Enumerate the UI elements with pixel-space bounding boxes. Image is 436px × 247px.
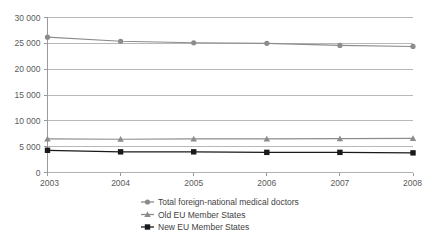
square-marker-icon bbox=[410, 150, 415, 155]
square-marker-icon bbox=[337, 150, 342, 155]
legend-item[interactable]: Old EU Member States bbox=[141, 210, 245, 220]
y-axis-label: 15 000 bbox=[15, 90, 41, 100]
chart-legend: Total foreign-national medical doctorsOl… bbox=[141, 197, 299, 232]
square-marker-icon bbox=[264, 150, 269, 155]
x-axis-ticks-group bbox=[48, 173, 414, 177]
square-marker-icon bbox=[191, 149, 196, 154]
legend-item-label: Total foreign-national medical doctors bbox=[158, 197, 299, 207]
x-axis-label: 2007 bbox=[330, 178, 349, 188]
square-marker-icon bbox=[118, 149, 123, 154]
chart-canvas: 05 00010 00015 00020 00025 00030 000 200… bbox=[0, 0, 436, 247]
line-chart: 05 00010 00015 00020 00025 00030 000 200… bbox=[0, 0, 436, 247]
circle-marker-icon bbox=[410, 44, 415, 49]
series-line bbox=[48, 37, 414, 46]
x-axis-label: 2008 bbox=[403, 178, 422, 188]
legend-item-label: New EU Member States bbox=[158, 222, 249, 232]
y-axis-label: 10 000 bbox=[15, 116, 41, 126]
y-axis-labels-group: 05 00010 00015 00020 00025 00030 000 bbox=[15, 13, 41, 178]
x-axis-labels-group: 200320042005200620072008 bbox=[40, 178, 422, 188]
x-axis-label: 2006 bbox=[257, 178, 276, 188]
circle-marker-icon bbox=[118, 39, 123, 44]
y-axis-label: 25 000 bbox=[15, 38, 41, 48]
circle-marker-icon bbox=[191, 40, 196, 45]
square-marker-icon bbox=[145, 224, 150, 229]
x-axis-label: 2005 bbox=[184, 178, 203, 188]
circle-marker-icon bbox=[145, 199, 150, 204]
x-axis-label: 2004 bbox=[111, 178, 130, 188]
legend-item[interactable]: Total foreign-national medical doctors bbox=[141, 197, 299, 207]
square-marker-icon bbox=[45, 148, 50, 153]
circle-marker-icon bbox=[45, 35, 50, 40]
legend-item-label: Old EU Member States bbox=[158, 210, 245, 220]
circle-marker-icon bbox=[337, 43, 342, 48]
x-axis-label: 2003 bbox=[40, 178, 59, 188]
y-axis-label: 5 000 bbox=[19, 142, 41, 152]
y-axis-label: 30 000 bbox=[15, 13, 41, 23]
legend-item[interactable]: New EU Member States bbox=[141, 222, 249, 232]
series-line bbox=[48, 150, 414, 153]
y-axis-label: 0 bbox=[36, 168, 41, 178]
circle-marker-icon bbox=[264, 41, 269, 46]
series-line bbox=[48, 138, 414, 139]
y-axis-label: 20 000 bbox=[15, 64, 41, 74]
